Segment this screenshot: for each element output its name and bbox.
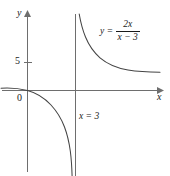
y-axis-label: y [17,8,21,18]
curve-left-branch [1,88,72,176]
equation-numerator: 2x [121,20,134,31]
function-graph-figure: y x 5 0 x = 3 y = 2x x − 3 [0,0,170,176]
x-axis-label: x [157,92,161,102]
equation-equals-sign: = [107,27,112,37]
asymptote-label: x = 3 [79,112,99,122]
equation-denominator: x − 3 [116,32,140,43]
plot-canvas [0,0,170,176]
equation-label: y = 2x x − 3 [100,20,140,43]
equation-fraction: 2x x − 3 [116,20,140,43]
origin-label: 0 [17,93,22,103]
y-axis-arrowhead [24,10,31,17]
equation-left-side: y [100,27,104,37]
y-tick-label-5: 5 [15,56,20,66]
